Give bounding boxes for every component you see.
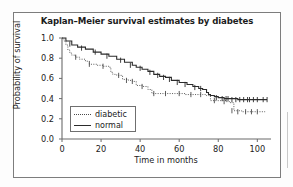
legend-line-dotted-icon xyxy=(74,111,91,118)
figure-root: Kaplan–Meier survival estimates by diabe… xyxy=(0,0,293,187)
x-tick-label: 60 xyxy=(164,144,194,154)
x-tick-label: 20 xyxy=(86,144,116,154)
series-layer xyxy=(62,38,267,114)
y-tick-label: 0.6 xyxy=(28,73,54,83)
survival-curve-normal xyxy=(62,38,267,100)
y-tick-label: 0.4 xyxy=(28,94,54,104)
legend-item-normal: normal xyxy=(74,119,123,131)
y-axis-label: Probability of survival xyxy=(12,15,22,115)
legend-line-solid-icon xyxy=(74,122,91,129)
legend-label-normal: normal xyxy=(95,121,123,130)
y-tick-label: 0.2 xyxy=(28,114,54,124)
x-axis-label: Time in months xyxy=(62,155,270,165)
x-tick-label: 80 xyxy=(203,144,233,154)
y-tick-label: 0.8 xyxy=(28,53,54,63)
x-tick-label: 40 xyxy=(125,144,155,154)
x-tick-label: 0 xyxy=(47,144,77,154)
chart-legend: diabetic normal xyxy=(70,106,136,132)
y-tick-label: 0.0 xyxy=(28,134,54,144)
y-tick-label: 1.0 xyxy=(28,33,54,43)
x-tick-label: 100 xyxy=(242,144,272,154)
censor-marks-normal xyxy=(70,41,267,102)
legend-label-diabetic: diabetic xyxy=(95,110,127,119)
